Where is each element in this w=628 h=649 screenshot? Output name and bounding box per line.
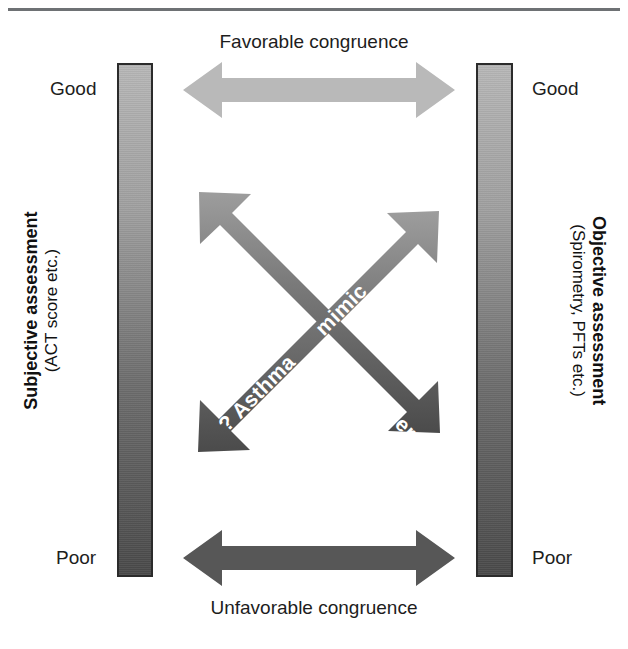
arrow-layer: ? Poor perceiver ? Asthma mimic	[0, 0, 628, 649]
asthma-mimic-lower-label: ? Asthma	[214, 350, 300, 436]
unfavorable-congruence-arrow	[183, 530, 455, 586]
congruence-diagram: Good Poor Good Poor Subjective assessmen…	[0, 0, 628, 649]
favorable-congruence-arrow	[183, 62, 455, 118]
